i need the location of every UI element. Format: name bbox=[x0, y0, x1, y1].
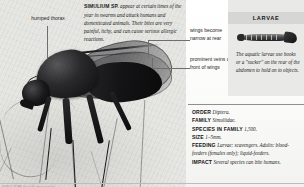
leg-tarsus bbox=[72, 140, 76, 187]
blackfly-specimen bbox=[18, 40, 186, 158]
fact-label: ORDER bbox=[192, 109, 211, 115]
leg-tarsus bbox=[45, 128, 51, 180]
larva-illustration bbox=[236, 31, 298, 45]
larva-body bbox=[240, 34, 288, 41]
callout-humped-thorax: humped thorax bbox=[26, 15, 70, 23]
fact-label: SPECIES IN FAMILY bbox=[192, 126, 243, 132]
main-caption: SIMULIUM SP. appear at certain times of … bbox=[84, 2, 186, 43]
head bbox=[20, 77, 53, 108]
blackfly-info-plate: SIMULIUM SP. appear at certain times of … bbox=[0, 0, 304, 187]
larvae-panel-title: LARVAE bbox=[253, 15, 280, 21]
table-row: SPECIES IN FAMILY 1,500. bbox=[188, 125, 304, 133]
skin-hair bbox=[0, 113, 66, 186]
proboscis bbox=[19, 98, 35, 110]
skin-hair bbox=[0, 119, 14, 180]
larva-segment bbox=[266, 35, 267, 40]
table-row: FAMILY Simuliidae. bbox=[188, 116, 304, 124]
skin-hair bbox=[1, 91, 78, 142]
larvae-description: The aquatic larvae use hooks or a "sucke… bbox=[236, 50, 300, 74]
fact-table: ORDER Diptera. FAMILY Simuliidae. SPECIE… bbox=[188, 104, 304, 166]
table-row: ORDER Diptera. bbox=[188, 108, 304, 116]
fact-value: 1–5mm. bbox=[205, 134, 221, 140]
fact-label: FAMILY bbox=[192, 117, 211, 123]
larva-segment bbox=[271, 35, 272, 40]
bottom-rule bbox=[0, 183, 304, 184]
larvae-panel: LARVAE The aquatic larvae use hooks or a… bbox=[228, 0, 304, 96]
larva-segment bbox=[246, 35, 247, 40]
fact-label: IMPACT bbox=[192, 159, 212, 165]
leg-tarsus bbox=[99, 140, 110, 187]
skin-hair bbox=[140, 100, 146, 187]
table-row: IMPACT Several species can bite humans. bbox=[188, 158, 304, 166]
larva-segment bbox=[256, 35, 257, 40]
table-row: FEEDING Larvae: scavengers. Adults: bloo… bbox=[188, 141, 304, 158]
plate-credit: SIMULIIDAE blackfly macro plate bbox=[2, 185, 55, 187]
skin-hair bbox=[69, 112, 75, 187]
leader-line-veins bbox=[152, 68, 190, 69]
table-row: SIZE 1–5mm. bbox=[188, 133, 304, 141]
fact-value: Simuliidae. bbox=[213, 117, 236, 123]
larva-head bbox=[237, 34, 244, 41]
wing-lower bbox=[73, 50, 173, 101]
larva-segment bbox=[261, 35, 262, 40]
fact-label: SIZE bbox=[192, 134, 204, 140]
larvae-panel-header: LARVAE bbox=[228, 12, 304, 24]
fact-value: Diptera. bbox=[213, 109, 230, 115]
humped-thorax bbox=[34, 47, 101, 101]
wing-vein-secondary bbox=[74, 51, 152, 57]
leader-line-veins-drop bbox=[152, 58, 153, 68]
larva-segment bbox=[251, 35, 252, 40]
skin-hair bbox=[90, 151, 102, 187]
species-name: SIMULIUM SP. bbox=[84, 3, 119, 9]
wing-upper bbox=[63, 36, 175, 105]
fact-value: 1,500. bbox=[244, 126, 257, 132]
fact-value: Several species can bite humans. bbox=[213, 159, 280, 165]
fact-label: FEEDING bbox=[192, 142, 216, 148]
larva-sucker-tail bbox=[283, 31, 297, 43]
antenna bbox=[23, 72, 50, 96]
skin-hair bbox=[0, 148, 12, 184]
larva-segment bbox=[276, 35, 277, 40]
leader-line-humped-thorax bbox=[47, 26, 48, 58]
skin-hair bbox=[103, 119, 117, 187]
skin-hair bbox=[39, 104, 50, 184]
